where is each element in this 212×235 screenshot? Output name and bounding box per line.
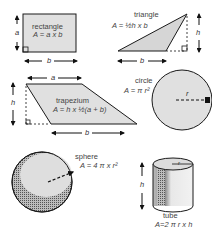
tube-name: tube xyxy=(163,212,178,220)
tube-formula: A=2 π r x h xyxy=(155,221,192,229)
trapezium-height-label: h xyxy=(11,99,15,107)
trapezium-formula: A = h x ½(a + b) xyxy=(53,106,107,114)
trapezium-base-label: b xyxy=(85,129,89,137)
tube-shape xyxy=(142,158,193,212)
triangle-formula: A = ½h x b xyxy=(112,22,148,30)
circle-radius-label: r xyxy=(186,90,189,98)
sphere-formula: A = 4 π x r² xyxy=(80,162,117,170)
shapes-diagram xyxy=(0,0,212,235)
sphere-shape xyxy=(12,152,73,212)
rectangle-formula: A = a x b xyxy=(33,31,63,39)
trapezium-top-label: a xyxy=(51,74,55,82)
circle-shape xyxy=(152,70,212,130)
triangle-height-label: h xyxy=(196,29,200,37)
rectangle-side-label: a xyxy=(15,29,19,37)
rectangle-base-label: b xyxy=(47,57,51,65)
tube-radius-label: r xyxy=(178,159,180,167)
triangle-name: triangle xyxy=(134,11,159,19)
circle-name: circle xyxy=(135,77,153,85)
trapezium-name: trapezium xyxy=(56,97,89,105)
circle-formula: A = π r² xyxy=(124,87,149,95)
tube-height-label: h xyxy=(140,181,144,189)
sphere-name: sphere xyxy=(75,153,98,161)
triangle-base-label: b xyxy=(140,57,144,65)
